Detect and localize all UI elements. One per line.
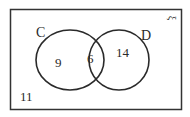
set-d-only-value: 14	[116, 46, 129, 59]
set-d-circle	[89, 30, 149, 90]
set-c-label: C	[36, 26, 45, 40]
set-c-only-value: 9	[55, 56, 62, 69]
set-d-label: D	[141, 29, 151, 43]
intersection-value: 6	[87, 52, 94, 65]
universal-set-symbol: ξ	[167, 16, 177, 20]
outside-value: 11	[20, 90, 33, 103]
